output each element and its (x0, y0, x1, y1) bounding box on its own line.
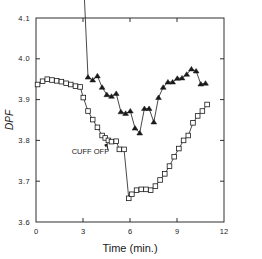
marker-square-1-24 (139, 187, 144, 192)
chart-figure: 0369124.14.03.93.83.73.6Time (min.)DPFCU… (0, 0, 262, 259)
marker-square-1-13 (95, 125, 100, 130)
x-axis-title: Time (min.) (102, 242, 157, 254)
y-axis-title: DPF (4, 109, 15, 130)
marker-triangle-0-20 (127, 108, 133, 113)
marker-square-1-30 (167, 164, 172, 169)
marker-square-1-23 (134, 188, 139, 193)
marker-square-1-4 (54, 79, 59, 84)
x-tick-label-0: 0 (34, 227, 38, 236)
x-tick-label-4: 12 (220, 227, 228, 236)
y-tick-label-4: 3.7 (18, 177, 30, 186)
marker-square-1-32 (177, 146, 182, 151)
x-tick-label-1: 3 (81, 227, 85, 236)
marker-square-1-19 (117, 147, 122, 152)
marker-square-1-25 (144, 187, 149, 192)
marker-square-1-33 (181, 138, 186, 143)
marker-triangle-0-14 (99, 85, 105, 90)
marker-triangle-0-36 (203, 81, 209, 86)
marker-square-1-2 (45, 77, 50, 82)
marker-square-1-12 (90, 117, 95, 122)
y-tick-label-3: 3.8 (18, 136, 30, 145)
marker-square-1-28 (158, 178, 163, 183)
marker-triangle-0-21 (132, 126, 138, 131)
marker-triangle-0-17 (113, 91, 119, 96)
y-tick-label-2: 3.9 (18, 95, 30, 104)
marker-triangle-0-15 (104, 92, 110, 97)
marker-square-1-8 (73, 84, 78, 89)
x-tick-label-2: 6 (128, 227, 132, 236)
marker-square-1-36 (195, 114, 200, 119)
marker-triangle-0-18 (118, 109, 124, 114)
cuff-off-label: CUFF OFF (72, 147, 109, 156)
marker-square-1-37 (200, 109, 205, 114)
marker-square-1-34 (186, 133, 191, 138)
marker-square-1-1 (40, 79, 45, 84)
plot-frame (36, 18, 224, 222)
marker-square-1-6 (64, 81, 69, 86)
dpf-time-plot: 0369124.14.03.93.83.73.6Time (min.)DPFCU… (0, 0, 262, 259)
marker-triangle-0-11 (85, 75, 91, 80)
marker-triangle-0-25 (151, 119, 157, 124)
y-tick-label-0: 4.1 (18, 14, 30, 23)
marker-square-1-10 (81, 95, 86, 100)
marker-square-1-29 (162, 172, 167, 177)
marker-square-1-31 (172, 154, 177, 159)
x-tick-label-3: 9 (175, 227, 179, 236)
marker-triangle-0-26 (156, 95, 162, 100)
y-tick-label-1: 4.0 (18, 54, 30, 63)
y-tick-label-5: 3.6 (18, 218, 30, 227)
marker-triangle-0-13 (95, 73, 101, 78)
marker-square-1-7 (68, 82, 73, 87)
marker-square-1-35 (191, 121, 196, 126)
marker-square-1-3 (50, 78, 55, 83)
marker-square-1-38 (205, 102, 210, 107)
marker-square-1-0 (35, 82, 40, 87)
marker-square-1-9 (78, 85, 83, 90)
marker-square-1-22 (130, 192, 135, 197)
marker-square-1-20 (122, 147, 127, 152)
marker-square-1-27 (153, 184, 158, 189)
marker-triangle-0-33 (189, 66, 195, 71)
marker-square-1-18 (114, 139, 119, 144)
marker-square-1-11 (86, 109, 91, 114)
marker-square-1-26 (148, 188, 153, 193)
marker-square-1-5 (59, 79, 64, 84)
marker-square-1-17 (109, 139, 114, 144)
